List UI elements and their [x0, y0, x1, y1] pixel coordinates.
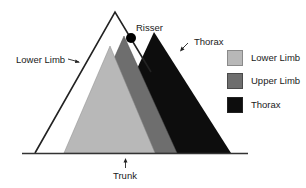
- swatch-lower-limb: [227, 50, 243, 66]
- outline-label: Lower Limb: [16, 55, 65, 65]
- legend-item-thorax: Thorax: [227, 97, 281, 113]
- legend-item-lower-limb: Lower Limb: [227, 50, 300, 66]
- legend-label: Lower Limb: [251, 53, 300, 63]
- swatch-upper-limb: [227, 73, 243, 89]
- risser-marker: [126, 33, 136, 43]
- trunk-label: Trunk: [113, 171, 137, 181]
- legend-item-upper-limb: Upper Limb: [227, 73, 300, 89]
- legend-label: Upper Limb: [251, 76, 300, 86]
- thorax-label: Thorax: [194, 37, 224, 47]
- lower-limb-arrowhead-icon: [75, 60, 80, 64]
- legend-label: Thorax: [251, 100, 281, 110]
- trunk-arrowhead-icon: [124, 158, 128, 163]
- risser-label: Risser: [136, 23, 163, 33]
- swatch-thorax: [227, 97, 243, 113]
